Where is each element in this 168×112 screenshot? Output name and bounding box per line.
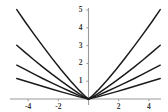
x-tick-label: 2 [110, 103, 128, 111]
y-tick-label: 3 [69, 42, 83, 50]
x-tick-label: -4 [19, 103, 37, 111]
curve-branch-2-right [89, 45, 161, 99]
x-tick-label: 4 [140, 103, 158, 111]
curve-branch-2-left [17, 45, 89, 99]
y-tick-label: 1 [69, 77, 83, 85]
y-tick-label: 5 [69, 6, 83, 14]
plot-canvas [0, 0, 168, 112]
y-tick-label: 4 [69, 24, 83, 32]
x-tick-label: -2 [49, 103, 67, 111]
axes-group [10, 8, 161, 105]
y-tick-label: 2 [69, 59, 83, 67]
plot-figure: -4-22412345 [0, 0, 168, 112]
